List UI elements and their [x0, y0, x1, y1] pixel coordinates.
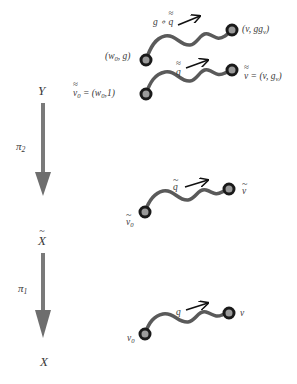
- start-node-icon: [140, 329, 150, 339]
- start-label-v0: v0: [127, 334, 135, 345]
- end-node-icon: [227, 25, 237, 35]
- path-q-double-tilde: [141, 60, 237, 99]
- path-label-g-q-double-tilde: g ∘ q: [153, 18, 173, 28]
- start-label-v0-double-tilde: v0 = (w0,1): [73, 89, 115, 100]
- start-label-v0-tilde: v0: [126, 218, 134, 229]
- direction-arrow-icon: [185, 180, 208, 187]
- space-label-Y: Y: [38, 84, 45, 97]
- diagram-canvas: [0, 0, 297, 384]
- path-label-q-tilde: q: [173, 183, 178, 193]
- path-q-tilde: [140, 180, 234, 217]
- projection-arrow-pi1: [35, 253, 51, 338]
- start-node-icon: [140, 207, 150, 217]
- end-label-v-ggv: (v, ggv): [242, 25, 269, 36]
- direction-arrow-icon: [186, 60, 208, 68]
- direction-arrow-icon: [186, 303, 208, 310]
- direction-arrow-icon: [178, 16, 200, 25]
- path-label-q-double-tilde: q: [176, 68, 181, 78]
- start-node-icon: [141, 89, 151, 99]
- space-label-X: X: [40, 355, 48, 368]
- end-label-v-double-tilde: v = (v, gv): [244, 72, 282, 83]
- end-node-icon: [227, 65, 237, 75]
- projection-arrow-pi2: [35, 103, 51, 196]
- path-q: [140, 303, 234, 339]
- start-label-w0-g: (w0, g): [105, 52, 131, 63]
- end-label-v: v: [240, 309, 244, 319]
- end-label-v-tilde: v: [242, 187, 246, 197]
- projection-label-pi2: π2: [16, 141, 25, 154]
- space-label-X-tilde: X: [38, 234, 46, 247]
- path-label-q: q: [176, 308, 181, 318]
- projection-label-pi1: π1: [18, 283, 27, 296]
- start-node-icon: [141, 55, 151, 65]
- end-node-icon: [224, 308, 234, 318]
- end-node-icon: [224, 184, 234, 194]
